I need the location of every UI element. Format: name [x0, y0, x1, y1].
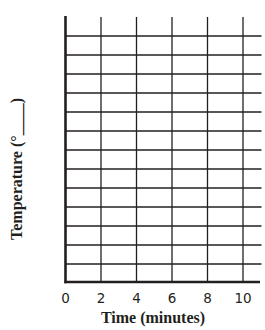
- x-tick-label: 2: [97, 290, 106, 306]
- x-tick-label: 4: [132, 290, 141, 306]
- x-tick-label: 6: [168, 290, 177, 306]
- x-tick-labels: 0246810: [61, 290, 251, 306]
- x-tick-label: 0: [61, 290, 70, 306]
- x-axis-title: Time (minutes): [101, 309, 205, 327]
- x-tick-label: 8: [203, 290, 212, 306]
- x-tick-label: 10: [234, 290, 251, 306]
- y-axis-title: Temperature (°____): [8, 98, 26, 240]
- chart-canvas: 0246810 Time (minutes) Temperature (°___…: [0, 0, 265, 330]
- blank-graph-chart: 0246810 Time (minutes) Temperature (°___…: [0, 0, 265, 330]
- horizontal-gridlines: [66, 36, 262, 264]
